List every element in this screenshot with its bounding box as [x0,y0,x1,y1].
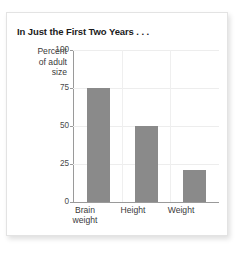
tick-mark-0 [70,202,73,203]
category-label-weight-line-1: Weight [157,205,205,215]
tick-mark-100 [70,50,73,51]
tick-mark-50 [70,126,73,127]
y-tick-label-100: 100 [43,45,69,54]
bar-weight [183,170,206,202]
y-axis-title-line-3: size [9,67,67,78]
category-label-height-line-1: Height [109,205,157,215]
category-label-brain-weight: Brain weight [61,205,109,226]
bar-height [135,126,158,202]
category-label-height: Height [109,205,157,215]
category-label-weight: Weight [157,205,205,215]
x-axis-line [73,202,219,203]
chart-title: In Just the First Two Years . . . [17,26,149,37]
y-tick-label-75: 75 [43,83,69,92]
category-label-brain-weight-line-2: weight [61,215,109,225]
bar-brain-weight [87,88,110,202]
tick-mark-25 [70,164,73,165]
category-separator-1 [122,50,123,202]
category-separator-2 [170,50,171,202]
category-label-brain-weight-line-1: Brain [61,205,109,215]
figure-card: In Just the First Two Years . . . Percen… [6,12,228,236]
y-tick-label-50: 50 [43,121,69,130]
gridline-100 [73,50,219,51]
y-tick-label-25: 25 [43,159,69,168]
tick-mark-75 [70,88,73,89]
plot-area [73,50,219,202]
y-axis-title-line-2: of adult [9,57,67,68]
